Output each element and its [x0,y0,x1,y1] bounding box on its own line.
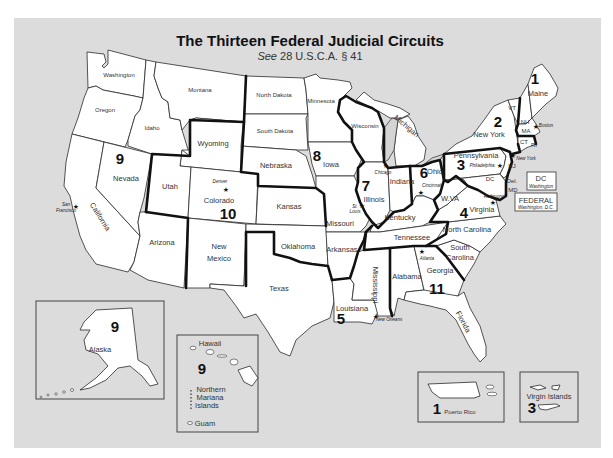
circuit-number-4: 4 [460,204,469,221]
puerto-rico-island [487,392,497,396]
label-south-dakota: South Dakota [257,128,294,134]
circuit-number-9-alaska: 9 [111,318,119,335]
hawaii-island [190,346,196,350]
circuit-number-1: 1 [531,70,539,87]
circuit-number-3: 3 [457,156,465,173]
label-kansas: Kansas [276,202,301,211]
city-star-richmond: ★ [490,199,496,207]
city-new-orleans: New Orleans [376,317,403,322]
label-utah: Utah [162,182,178,191]
aleutian-island [55,393,57,395]
circuit-number-8: 8 [313,147,321,164]
label-northern-mariana-3: Islands [195,401,219,410]
label-illinois: Illinois [364,195,385,204]
label-arkansas: Arkansas [326,245,358,254]
federal-circuits-map: The Thirteen Federal Judicial Circuits S… [0,0,613,458]
label-delaware: Del. [507,178,518,184]
label-washington: Washington [103,72,134,78]
label-rhode-island: RI [531,142,537,148]
aleutian-island [47,394,49,396]
label-west-virginia: W.VA [441,194,459,203]
label-montana: Montana [188,87,212,93]
city-star-denver: ★ [223,186,229,194]
label-iowa: Iowa [323,160,340,169]
circuit-number-2: 2 [494,113,502,130]
aleutian-island [71,389,74,392]
label-kentucky: Kentucky [385,213,416,222]
city-star-st-louis: ★ [359,202,365,210]
label-new-york: New York [473,130,505,139]
circuit-number-5: 5 [337,310,345,327]
city-star-cincinnati: ★ [418,189,424,197]
federal-box-title: FEDERAL [519,196,554,205]
label-mississippi: Mississippi [371,267,380,304]
circuit-number-6: 6 [420,164,428,181]
label-north-carolina: North Carolina [443,225,492,234]
map-title: The Thirteen Federal Judicial Circuits [176,32,444,49]
label-maryland: MD [508,187,518,193]
city-denver: Denver [213,179,228,184]
city-star-new-york: ★ [510,152,516,160]
subtitle-citation: 28 U.S.C.A. § 41 [277,50,363,62]
city-philadelphia: Philadelphia [469,163,494,168]
label-georgia: Georgia [427,266,455,275]
circuit-number-10: 10 [220,205,237,222]
aleutian-island [40,396,42,398]
label-south-carolina-2: Carolina [446,253,475,262]
circuit-number-11: 11 [429,280,445,297]
city-star-atlanta: ★ [419,248,425,256]
city-chicago: Chicago [375,170,392,175]
label-south-carolina-1: South [450,243,470,252]
label-oklahoma: Oklahoma [281,242,316,251]
hawaii-island [217,355,227,357]
city-cincinnati: Cincinnati [422,183,443,188]
city-star-chicago: ★ [383,162,389,170]
puerto-rico-island [486,385,494,389]
label-massachusetts: MA [522,128,531,134]
label-new-mexico-2: Mexico [207,254,231,263]
label-guam: Guam [195,419,215,428]
label-puerto-rico: Puerto Rico [444,409,476,415]
guam-island [188,422,193,425]
city-boston: Boston [539,123,554,128]
circuit-number-3-virgin-islands: 3 [528,399,536,416]
label-connecticut: CT [520,139,528,145]
label-maine: Maine [528,89,548,98]
label-texas: Texas [269,284,289,293]
city-san-francisco-1: San [62,202,71,207]
circuit-number-7: 7 [362,177,370,194]
circuit-number-9: 9 [116,150,124,167]
circuit-number-9-pacific: 9 [198,360,206,377]
label-wisconsin: Wisconsin [351,123,378,129]
hawaii-island [230,359,238,365]
label-vermont: VT [508,105,516,111]
label-new-hampshire: NH [521,119,530,125]
label-hawaii: Hawaii [199,339,222,348]
label-indiana: Indiana [390,177,415,186]
label-minnesota: Minnesota [307,98,335,104]
label-alaska: Alaska [89,345,112,354]
label-new-jersey: NJ [508,163,515,169]
label-idaho: Idaho [144,125,160,131]
label-alabama: Alabama [392,272,422,281]
state-new-mexico [186,218,246,288]
circuit-number-1-puerto-rico: 1 [433,400,441,417]
label-arizona: Arizona [149,238,175,247]
aleutian-island [63,391,66,394]
city-new-york: New York [516,156,536,161]
label-oregon: Oregon [95,107,115,113]
label-colorado: Colorado [204,196,234,205]
dc-box-subtitle: Washington [529,184,554,189]
label-missouri: Missouri [326,219,354,228]
label-wyoming: Wyoming [197,139,228,148]
label-ohio: Ohio [427,167,443,176]
dc-box-title: DC [536,174,547,183]
hawaii-island [206,350,214,355]
label-new-mexico-1: New [211,242,227,251]
label-nevada: Nevada [113,174,140,183]
city-san-francisco-2: Francisco [56,208,76,213]
label-dc-small: DC [486,176,495,182]
label-nebraska: Nebraska [260,161,293,170]
federal-box-subtitle: Washington, D.C. [518,205,554,210]
label-tennessee: Tennessee [394,233,430,242]
